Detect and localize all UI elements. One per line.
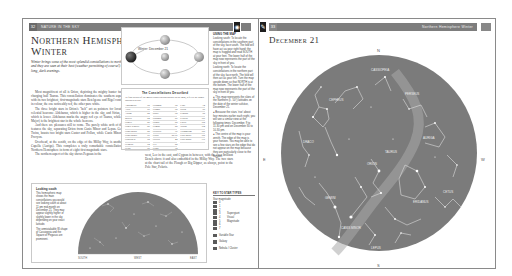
constellation-name: Ursa Major: [180, 134, 191, 137]
magnitude-value: 6: [219, 223, 227, 226]
key-label: Nebula / Cluster: [219, 247, 238, 250]
constellation-name: Lynx: [180, 104, 185, 107]
magnitude-value: 5: [219, 220, 227, 223]
page-reference: 106: [201, 130, 205, 133]
constellation-name: Cetus: [125, 147, 130, 150]
svg-text:CASSIOPEIA: CASSIOPEIA: [371, 68, 389, 72]
page-reference: 100: [201, 117, 205, 120]
page-reference: 74: [203, 104, 205, 107]
magnitude-value: 7: [219, 227, 227, 230]
magnitude-label: Visual: [227, 216, 234, 219]
svg-text:CETUS: CETUS: [443, 190, 453, 194]
svg-text:ERIDANUS: ERIDANUS: [413, 200, 429, 204]
constellation-name: Fornax: [153, 121, 160, 124]
constellation-name: Hydra: [153, 134, 159, 137]
constellation-name: Ursa Minor: [180, 138, 191, 141]
star-symbol-icon: [213, 227, 217, 230]
left-page: 32 Nature in the Sky ◉ Northern Hemisphe…: [22, 18, 259, 269]
constellation-name: Draco: [153, 112, 159, 115]
chart-title: December 21: [269, 35, 320, 45]
symbol-icon: [213, 234, 217, 237]
page-reference: 92: [147, 138, 149, 141]
magnitude-label: Supergiant: [227, 212, 240, 215]
svg-text:DRACO: DRACO: [303, 140, 315, 144]
horizon-sky-map: SOUTH WEST EAST: [72, 186, 205, 262]
svg-text:ORION: ORION: [367, 162, 377, 166]
feather-icon: ✎: [259, 21, 267, 33]
table-column: Columba98Cygnus98Draco98Eridanus60Fornax…: [153, 104, 178, 152]
magnitude-value: 0: [219, 201, 227, 204]
constellation-name: Canis Major: [125, 130, 137, 133]
page-reference: 98: [147, 104, 149, 107]
symbol-icon: [213, 240, 217, 243]
using-the-map-sidebar: Using the map Looking south: To locate t…: [213, 33, 255, 159]
body-paragraph: The northern aspect of the sky shows Peg…: [31, 152, 139, 156]
constellation-name: Cassiopeia: [125, 138, 135, 141]
page-number: 33: [269, 23, 277, 31]
constellation-name: Leo: [153, 143, 157, 146]
running-head: Nature in the Sky: [41, 23, 80, 31]
constellation-name: Eridanus: [153, 117, 162, 120]
page-reference: 96: [203, 108, 205, 111]
table-grid: Andromeda98Aries99Auriga82Boötes84Cancer…: [125, 104, 205, 152]
page-reference: 98: [175, 112, 177, 115]
page-reference: 60: [175, 117, 177, 120]
magnitude-label: Magnitude: [227, 220, 239, 223]
page-reference: 98: [203, 112, 205, 115]
constellation-name: Taurus: [180, 125, 186, 128]
constellation-name: Lacerta: [153, 138, 160, 141]
table-title: The Constellations Described: [125, 91, 205, 95]
constellation-name: Andromeda: [125, 104, 136, 107]
constellation-name: Gemini: [153, 125, 160, 128]
compass-east: E: [263, 157, 266, 162]
constellation-name: Auriga: [125, 112, 132, 115]
page-reference: 98: [175, 108, 177, 111]
magnitude-value: 4: [219, 216, 227, 219]
page-reference: 68: [175, 121, 177, 124]
constellation-name: Perseus: [180, 117, 187, 120]
svg-text:GEMINI: GEMINI: [325, 196, 336, 200]
constellation-name: Boötes: [125, 117, 132, 120]
page-reference: 104: [201, 125, 205, 128]
constellation-name: Orion: [180, 108, 186, 111]
svg-text:CEPHEUS: CEPHEUS: [329, 98, 344, 102]
orbit-diagram: Winter: December 21: [121, 27, 209, 85]
page-reference: 108: [201, 134, 205, 137]
key-row: Nebula / Cluster: [213, 247, 255, 251]
svg-text:CANIS MINOR: CANIS MINOR: [341, 226, 362, 230]
magnitude-value: 1: [219, 205, 227, 208]
constellation-name: Pegasus: [180, 112, 188, 115]
sidebar-paragraph: ● The centre of the map is your zenith. …: [213, 133, 255, 158]
page-reference: 82: [147, 112, 149, 115]
constellation-name: Columba: [153, 104, 162, 107]
horizon-label: SOUTH: [78, 256, 87, 260]
svg-text:TAURUS: TAURUS: [385, 150, 397, 154]
page-reference: 110: [201, 138, 205, 141]
sidebar-heading: Using the map: [213, 33, 255, 37]
page-number: 32: [29, 23, 37, 31]
star-chart: CEPHEUSCASSIOPEIAPERSEUS AURIGATAURUSORI…: [275, 47, 485, 259]
constellation-name: Cygnus: [153, 108, 160, 111]
page-reference: 76: [175, 130, 177, 133]
constellation-name: Canis Minor: [125, 134, 137, 137]
page-reference: 96: [147, 147, 149, 150]
compass-south: S: [377, 263, 380, 268]
key-heading: Key to star types: [213, 192, 255, 196]
constellations-table: The Constellations Described To find det…: [121, 88, 209, 150]
sidebar-paragraph: ● Because the stars 'rise' about four mi…: [213, 111, 255, 132]
page-reference: 86: [147, 121, 149, 124]
star-key: Key to star types Star magnitude0123Supe…: [213, 192, 255, 250]
page-reference: 44: [175, 138, 177, 141]
table-row: Lepus72: [153, 147, 178, 151]
constellation-name: Aries: [125, 108, 130, 111]
table-row: Ursa Minor110: [180, 138, 205, 142]
page-reference: 86: [147, 125, 149, 128]
page-reference: 84: [147, 117, 149, 120]
sidebar-paragraph: ● This map represents the skies of the N…: [213, 96, 255, 110]
horizon-heading: Looking south: [36, 187, 57, 191]
sidebar-paragraph: Looking south: To locate the constellati…: [213, 37, 255, 65]
key-label: Galaxy: [219, 240, 227, 243]
page-reference: 86-90: [172, 134, 178, 137]
table-subtitle: To find details of the major constellati…: [125, 96, 205, 102]
constellation-name: Hercules: [153, 130, 162, 133]
